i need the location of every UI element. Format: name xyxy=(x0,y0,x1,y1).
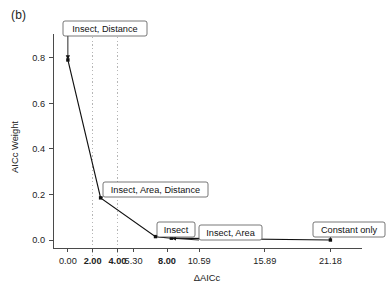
annotation-label: Insect, Distance xyxy=(63,21,147,36)
y-tick-label-0: 0.0 xyxy=(32,235,45,245)
x-tick-label-0: 0.00 xyxy=(59,256,77,266)
annotation-text: Constant only xyxy=(321,225,378,235)
leader-lines-group xyxy=(66,36,331,241)
annotation-label: Constant only xyxy=(313,222,385,237)
x-tick-label-5: 10.59 xyxy=(188,256,211,266)
y-axis-title: AICc Weight xyxy=(9,121,20,173)
x-axis-title: ΔAICc xyxy=(194,272,221,283)
data-series-group xyxy=(68,60,331,240)
x-tick-label-1: 2.00 xyxy=(84,256,102,266)
figure-panel: (b) Insect, DistanceInsect, Area, Distan… xyxy=(0,0,389,294)
gridlines-group xyxy=(93,22,118,256)
annotation-label: Insect, Area xyxy=(199,225,262,240)
aicc-weight-line-chart: Insect, DistanceInsect, Area, DistanceIn… xyxy=(0,0,389,294)
y-tick-label-4: 0.8 xyxy=(32,53,45,63)
y-tick-label-3: 0.6 xyxy=(32,99,45,109)
x-tick-label-7: 21.18 xyxy=(319,256,342,266)
series-line-0 xyxy=(68,60,331,240)
annotation-labels-group: Insect, DistanceInsect, Area, DistanceIn… xyxy=(63,21,385,240)
annotation-text: Insect, Distance xyxy=(72,24,137,34)
annotation-label: Insect xyxy=(157,222,195,237)
data-markers-group xyxy=(66,58,332,241)
x-tick-label-6: 15.89 xyxy=(253,256,276,266)
axis-spines xyxy=(53,34,362,248)
x-tick-label-4: 8.00 xyxy=(158,256,176,266)
y-tick-label-1: 0.2 xyxy=(32,190,45,200)
annotation-label: Insect, Area, Distance xyxy=(103,182,208,197)
annotation-text: Insect, Area, Distance xyxy=(111,185,200,195)
annotation-text: Insect, Area xyxy=(206,228,255,238)
annotation-text: Insect xyxy=(164,225,189,235)
x-tick-label-3: 5.30 xyxy=(125,256,143,266)
y-tick-label-2: 0.4 xyxy=(32,144,45,154)
axes-group xyxy=(53,34,362,248)
